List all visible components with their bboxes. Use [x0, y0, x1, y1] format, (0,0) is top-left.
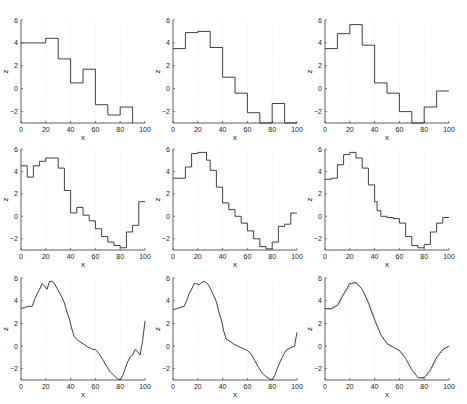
x-axis-label: x: [385, 260, 389, 269]
x-tick-label: 40: [67, 383, 75, 390]
plot-canvas: 020406080100−20246xz020406080100−20246xz…: [0, 0, 467, 404]
chart-panel-5: 020406080100−20246xz: [153, 146, 303, 270]
y-tick-label: 0: [318, 343, 322, 350]
x-tick-label: 40: [219, 253, 227, 260]
chart-panel-9: 020406080100−20246xz: [305, 275, 455, 400]
y-axis-label: z: [1, 198, 10, 202]
y-tick-label: 0: [14, 213, 18, 220]
y-tick-label: −2: [314, 235, 322, 242]
x-tick-label: 100: [291, 383, 303, 390]
x-axis-label: x: [81, 133, 85, 142]
data-series: [325, 283, 449, 378]
x-tick-label: 80: [268, 383, 276, 390]
x-tick-label: 20: [346, 126, 354, 133]
y-tick-label: 4: [14, 168, 18, 175]
y-tick-label: 6: [318, 275, 322, 282]
x-tick-label: 100: [291, 253, 303, 260]
x-tick-label: 20: [346, 383, 354, 390]
y-tick-label: 4: [166, 168, 170, 175]
y-tick-label: 6: [14, 275, 18, 282]
chart-panel-1: 020406080100−20246xz: [1, 17, 151, 143]
x-tick-label: 60: [92, 253, 100, 260]
x-tick-label: 100: [443, 253, 455, 260]
y-tick-label: −2: [314, 365, 322, 372]
x-tick-label: 40: [219, 126, 227, 133]
data-series: [325, 152, 449, 247]
x-tick-label: 80: [420, 126, 428, 133]
y-tick-label: 4: [166, 297, 170, 304]
y-tick-label: 2: [318, 320, 322, 327]
y-axis-label: z: [305, 327, 314, 331]
y-tick-label: 4: [318, 39, 322, 46]
x-tick-label: 0: [19, 126, 23, 133]
y-tick-label: 0: [318, 213, 322, 220]
x-tick-label: 60: [244, 126, 252, 133]
y-tick-label: 6: [166, 17, 170, 24]
y-tick-label: 0: [14, 85, 18, 92]
chart-panel-7: 020406080100−20246xz: [1, 275, 151, 400]
x-tick-label: 80: [420, 383, 428, 390]
x-tick-label: 40: [67, 126, 75, 133]
x-axis-label: x: [385, 390, 389, 399]
y-tick-label: −2: [10, 108, 18, 115]
y-tick-label: 2: [166, 320, 170, 327]
reference-series: [326, 283, 450, 378]
x-tick-label: 80: [268, 126, 276, 133]
x-tick-label: 60: [396, 383, 404, 390]
y-tick-label: −2: [162, 365, 170, 372]
y-tick-label: 2: [14, 190, 18, 197]
chart-panel-4: 020406080100−20246xz: [1, 146, 151, 270]
y-tick-label: 2: [166, 190, 170, 197]
x-tick-label: 20: [194, 253, 202, 260]
y-tick-label: 2: [166, 62, 170, 69]
y-tick-label: 2: [14, 320, 18, 327]
x-tick-label: 20: [42, 383, 50, 390]
y-tick-label: 4: [318, 168, 322, 175]
y-tick-label: 4: [14, 297, 18, 304]
x-tick-label: 60: [92, 126, 100, 133]
y-axis-label: z: [1, 70, 10, 74]
data-series: [21, 281, 145, 380]
x-axis-label: x: [233, 390, 237, 399]
y-tick-label: 2: [318, 190, 322, 197]
x-tick-label: 80: [420, 253, 428, 260]
x-tick-label: 60: [244, 383, 252, 390]
y-tick-label: −2: [162, 108, 170, 115]
y-tick-label: 6: [318, 17, 322, 24]
x-tick-label: 20: [42, 253, 50, 260]
y-tick-label: −2: [10, 365, 18, 372]
x-tick-label: 0: [323, 126, 327, 133]
y-tick-label: −2: [314, 108, 322, 115]
x-axis-label: x: [233, 260, 237, 269]
y-tick-label: −2: [10, 235, 18, 242]
x-tick-label: 40: [67, 253, 75, 260]
data-series: [173, 281, 297, 380]
y-axis-label: z: [153, 198, 162, 202]
x-tick-label: 40: [371, 126, 379, 133]
x-tick-label: 20: [42, 126, 50, 133]
y-axis-label: z: [153, 327, 162, 331]
y-axis-label: z: [153, 70, 162, 74]
x-tick-label: 40: [219, 383, 227, 390]
y-tick-label: 0: [166, 213, 170, 220]
chart-panel-6: 020406080100−20246xz: [305, 146, 455, 270]
x-tick-label: 20: [346, 253, 354, 260]
chart-panel-2: 020406080100−20246xz: [153, 17, 303, 143]
data-series: [173, 31, 297, 123]
y-tick-label: 6: [166, 146, 170, 153]
x-tick-label: 80: [116, 383, 124, 390]
y-tick-label: 6: [318, 146, 322, 153]
x-tick-label: 0: [19, 383, 23, 390]
x-tick-label: 80: [268, 253, 276, 260]
chart-panel-8: 020406080100−20246xz: [153, 275, 303, 400]
x-tick-label: 0: [171, 126, 175, 133]
data-series: [173, 152, 297, 249]
y-tick-label: 4: [318, 297, 322, 304]
data-series: [21, 158, 145, 248]
figure-grid: 020406080100−20246xz020406080100−20246xz…: [0, 0, 467, 404]
x-tick-label: 60: [396, 253, 404, 260]
x-tick-label: 20: [194, 383, 202, 390]
x-tick-label: 0: [19, 253, 23, 260]
y-axis-label: z: [305, 198, 314, 202]
y-tick-label: 0: [14, 343, 18, 350]
